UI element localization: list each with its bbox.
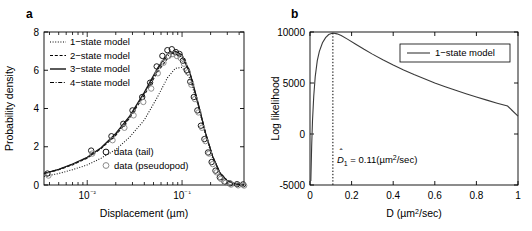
x-tick-label: 0 xyxy=(307,190,313,201)
panel-b-plot: -5000050001000000.20.40.60.81ˆD1 = 0.11(… xyxy=(266,0,532,231)
x-tick-label: 1 xyxy=(515,190,521,201)
y-tick-label: 0 xyxy=(299,129,305,140)
panel-a-plot: 0246810⁻²10⁻¹Displacement (µm)Probabilit… xyxy=(0,0,266,231)
y-tick-label: 10000 xyxy=(277,27,305,38)
x-axis-title: D (µm2/sec) xyxy=(386,207,441,219)
panel-a-label: a xyxy=(26,8,33,20)
data-marker xyxy=(206,151,211,156)
y-tick-label: 2 xyxy=(33,141,39,152)
x-tick-label: 10⁻¹ xyxy=(173,189,191,201)
y-axis-title: Log likelihood xyxy=(269,76,281,140)
legend-label-data: data (tail) xyxy=(114,146,154,157)
y-tick-label: 8 xyxy=(33,27,39,38)
legend-swatch-data xyxy=(103,163,109,169)
x-axis-title: Displacement (µm) xyxy=(100,207,188,219)
legend-label-data: data (pseudopod) xyxy=(114,160,188,171)
legend-label-model: 3−state model xyxy=(70,63,130,74)
panel-a: a 0246810⁻²10⁻¹Displacement (µm)Probabil… xyxy=(0,0,266,231)
y-tick-label: 0 xyxy=(33,180,39,191)
x-tick-label: 0.6 xyxy=(428,190,442,201)
legend-label-model: 4−state model xyxy=(70,77,130,88)
data-marker xyxy=(218,176,223,181)
y-axis-title: Probability density xyxy=(3,65,15,151)
data-marker xyxy=(160,53,165,58)
legend-label: 1−state model xyxy=(435,47,495,58)
x-tick-label: 0.4 xyxy=(386,190,400,201)
y-tick-label: 6 xyxy=(33,65,39,76)
panel-b-label: b xyxy=(291,8,298,20)
figure-container: a 0246810⁻²10⁻¹Displacement (µm)Probabil… xyxy=(0,0,532,231)
panel-b: b -5000050001000000.20.40.60.81ˆD1 = 0.1… xyxy=(266,0,532,231)
x-tick-label: 0.2 xyxy=(345,190,359,201)
x-tick-label: 0.8 xyxy=(469,190,483,201)
legend-label-model: 2−state model xyxy=(70,50,130,61)
legend-swatch-data xyxy=(103,149,109,155)
data-marker xyxy=(141,99,146,104)
x-tick-label: 10⁻² xyxy=(78,189,96,201)
y-tick-label: 5000 xyxy=(283,78,306,89)
mle-annotation: D1 = 0.11(µm2/sec) xyxy=(337,154,417,167)
data-marker xyxy=(148,86,153,91)
y-tick-label: 4 xyxy=(33,103,39,114)
legend-label-model: 1−state model xyxy=(70,36,130,47)
y-tick-label: -5000 xyxy=(279,180,305,191)
data-marker xyxy=(214,170,219,175)
